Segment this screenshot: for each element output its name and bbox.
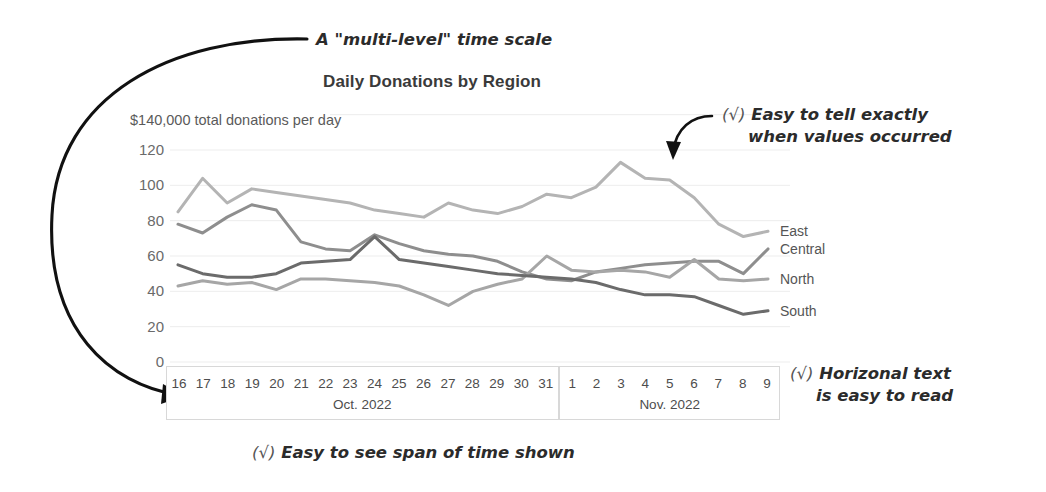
x-tick-21: 21	[289, 376, 313, 391]
x-tick-17: 17	[191, 376, 215, 391]
x-tick-3: 3	[609, 376, 633, 391]
x-tick-8: 8	[731, 376, 755, 391]
x-tick-9: 9	[755, 376, 779, 391]
x-tick-6: 6	[682, 376, 706, 391]
x-axis-month-label: Oct. 2022	[167, 397, 558, 412]
x-tick-5: 5	[657, 376, 681, 391]
x-tick-20: 20	[265, 376, 289, 391]
values-callout-arrow	[666, 116, 712, 160]
x-tick-22: 22	[313, 376, 337, 391]
x-tick-18: 18	[216, 376, 240, 391]
x-tick-7: 7	[706, 376, 730, 391]
x-tick-30: 30	[509, 376, 533, 391]
x-tick-4: 4	[633, 376, 657, 391]
x-tick-24: 24	[362, 376, 386, 391]
gridlines	[170, 115, 790, 362]
x-tick-29: 29	[485, 376, 509, 391]
annotation-multi-level: A "multi-level" time scale	[316, 29, 552, 51]
annotation-horizontal-text: (√) Horizonal text is easy to read	[790, 363, 953, 408]
x-tick-23: 23	[338, 376, 362, 391]
time-axis-band-0: 16171819202122232425262728293031Oct. 202…	[166, 366, 559, 420]
check-icon-3: (√)	[252, 443, 275, 462]
x-tick-25: 25	[387, 376, 411, 391]
annotation-span-of-time: (√) Easy to see span of time shown	[252, 442, 575, 464]
x-tick-2: 2	[584, 376, 608, 391]
series-label-east: East	[780, 223, 808, 239]
x-tick-19: 19	[240, 376, 264, 391]
x-tick-1: 1	[560, 376, 584, 391]
check-icon-2: (√)	[790, 364, 813, 383]
x-tick-31: 31	[534, 376, 558, 391]
series-label-south: South	[780, 303, 817, 319]
time-axis-band-1: 123456789Nov. 2022	[559, 366, 780, 420]
series-label-north: North	[780, 271, 814, 287]
check-icon: (√)	[722, 105, 745, 124]
series-line-east	[178, 162, 768, 236]
multi-level-callout-arrow	[52, 39, 307, 404]
series-line-south	[178, 237, 768, 315]
annotation-exact-values: (√) Easy to tell exactly when values occ…	[722, 104, 952, 149]
series-label-central: Central	[780, 241, 825, 257]
x-tick-16: 16	[167, 376, 191, 391]
x-axis-month-label: Nov. 2022	[560, 397, 779, 412]
chart-figure: Daily Donations by Region $140,000 total…	[0, 0, 1046, 492]
x-tick-26: 26	[411, 376, 435, 391]
x-tick-28: 28	[460, 376, 484, 391]
x-tick-27: 27	[436, 376, 460, 391]
